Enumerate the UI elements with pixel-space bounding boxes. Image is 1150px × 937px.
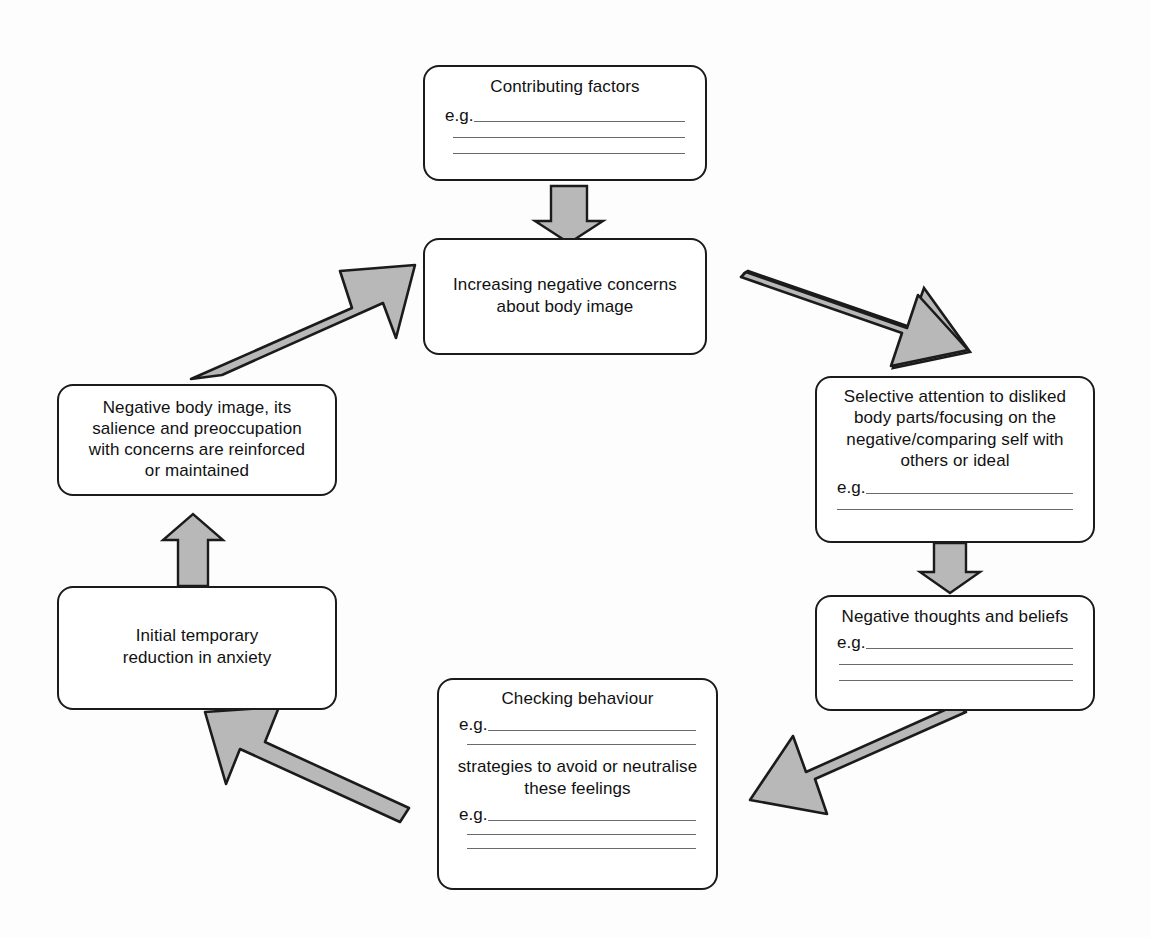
arrow-checking-to-initial	[205, 707, 409, 822]
node-title-line-2: body parts/focusing on the	[831, 407, 1079, 428]
eg-row[interactable]: e.g.	[831, 632, 1079, 649]
write-in-rule[interactable]	[866, 647, 1073, 649]
node-title-line-1: Selective attention to disliked	[831, 386, 1079, 407]
write-in-rule[interactable]	[866, 492, 1073, 494]
write-in-rule[interactable]	[837, 508, 1073, 510]
node-title-line-2: salience and preoccupation	[73, 418, 321, 439]
write-in-rule[interactable]	[488, 819, 696, 821]
write-in-rule[interactable]	[453, 136, 685, 138]
arrow-negative-body-image-to-increasing	[191, 265, 415, 379]
node-contributing-factors[interactable]: Contributing factors e.g.	[423, 65, 707, 181]
node-title-line-4: or maintained	[73, 460, 321, 481]
arrow-increasing-to-selective-shape	[741, 272, 968, 366]
node-negative-thoughts[interactable]: Negative thoughts and beliefs e.g.	[815, 595, 1095, 711]
write-in-rule[interactable]	[488, 729, 696, 731]
node-title-line-2: about body image	[439, 296, 691, 318]
node-initial-temporary-reduction[interactable]: Initial temporary reduction in anxiety	[57, 586, 337, 710]
arrow-increasing-to-selective	[745, 271, 970, 368]
node-title-line-3: negative/comparing self with	[831, 429, 1079, 450]
write-in-rule[interactable]	[467, 833, 696, 835]
eg-row[interactable]: e.g.	[831, 477, 1079, 494]
write-in-rule[interactable]	[839, 679, 1073, 681]
node-checking-behaviour[interactable]: Checking behaviour e.g. strategies to av…	[437, 678, 718, 890]
node-subtitle-line-1: strategies to avoid or neutralise	[453, 756, 702, 778]
node-selective-attention[interactable]: Selective attention to disliked body par…	[815, 376, 1095, 543]
write-in-rule[interactable]	[453, 152, 685, 154]
arrow-thoughts-to-checking	[750, 705, 966, 814]
node-title: Checking behaviour	[453, 688, 702, 710]
eg-row[interactable]: e.g.	[439, 105, 691, 122]
eg-row[interactable]: e.g.	[453, 714, 702, 731]
eg-row[interactable]: e.g.	[453, 804, 702, 821]
write-in-rule[interactable]	[839, 663, 1073, 665]
eg-label: e.g.	[831, 479, 865, 496]
node-title: Contributing factors	[439, 76, 691, 98]
diagram-canvas: Contributing factors e.g. Increasing neg…	[0, 0, 1150, 937]
node-title-line-1: Negative body image, its	[73, 397, 321, 418]
write-in-rule[interactable]	[467, 847, 696, 849]
arrow-initial-to-negative-body-image	[163, 514, 223, 586]
node-negative-body-image-reinforced[interactable]: Negative body image, its salience and pr…	[57, 384, 337, 496]
node-increasing-negative-concerns[interactable]: Increasing negative concerns about body …	[423, 238, 707, 355]
node-title-line-4: others or ideal	[831, 450, 1079, 471]
eg-label: e.g.	[453, 716, 487, 733]
arrow-selective-to-thoughts	[920, 543, 980, 593]
node-title-line-2: reduction in anxiety	[73, 647, 321, 669]
eg-label: e.g.	[439, 107, 473, 124]
write-in-rule[interactable]	[467, 743, 696, 745]
write-in-rule[interactable]	[474, 120, 685, 122]
node-title: Negative thoughts and beliefs	[831, 606, 1079, 628]
eg-label: e.g.	[831, 634, 865, 651]
node-title-line-1: Increasing negative concerns	[439, 274, 691, 296]
arrow-contributing-to-increasing	[535, 186, 603, 243]
node-subtitle-line-2: these feelings	[453, 778, 702, 800]
node-title-line-3: with concerns are reinforced	[73, 439, 321, 460]
eg-label: e.g.	[453, 806, 487, 823]
node-title-line-1: Initial temporary	[73, 625, 321, 647]
